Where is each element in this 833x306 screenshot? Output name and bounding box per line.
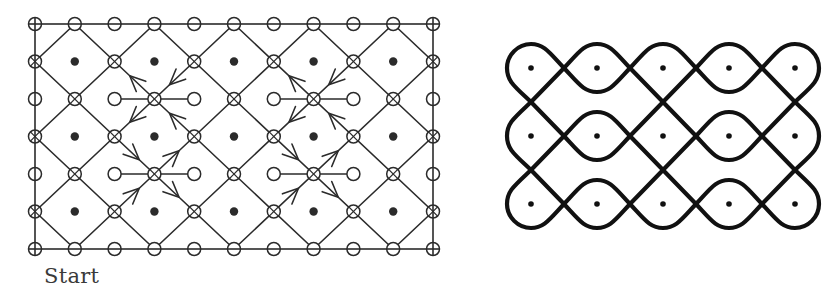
kolam-corner-loop (762, 44, 819, 102)
kolam-line (663, 102, 696, 136)
kolam-line (630, 170, 663, 204)
diagonal-line (234, 24, 433, 212)
diagram-canvas (0, 0, 833, 306)
kolam-dot (792, 133, 798, 139)
diagonal-line (35, 212, 75, 250)
open-circle-node (108, 168, 121, 181)
kolam-eye-bottom (696, 68, 762, 92)
kolam-eye-bottom (696, 136, 762, 160)
kolam-dot (660, 65, 666, 71)
kolam-line (663, 170, 696, 204)
kolam-dot (792, 201, 798, 207)
kolam-dot (726, 133, 732, 139)
kolam-bottom-arc (630, 204, 696, 228)
diagonal-line (35, 62, 234, 250)
kolam-line (630, 68, 663, 102)
filled-dot (230, 132, 238, 140)
open-circle-node (347, 168, 360, 181)
kolam-dot (726, 201, 732, 207)
filled-dot (71, 207, 79, 215)
kolam-dot (594, 133, 600, 139)
filled-dot (71, 132, 79, 140)
kolam-line (531, 68, 564, 102)
kolam-dots (528, 65, 798, 207)
kolam-line (762, 170, 795, 204)
kolam-eye-top (696, 44, 762, 68)
kolam-dot (594, 201, 600, 207)
kolam-pattern (507, 44, 819, 228)
kolam-line (630, 102, 663, 136)
kolam-dot (660, 133, 666, 139)
kolam-eye-top (564, 112, 630, 136)
kolam-line (663, 68, 696, 102)
kolam-dot (528, 65, 534, 71)
kolam-dot (726, 65, 732, 71)
kolam-eye-bottom (564, 68, 630, 92)
kolam-eye-top (696, 180, 762, 204)
kolam-eye-top (696, 112, 762, 136)
kolam-corner-loop (507, 44, 564, 102)
kolam-dot (528, 133, 534, 139)
kolam-line (531, 136, 564, 170)
kolam-line (663, 136, 696, 170)
diagonal-line (234, 62, 433, 250)
filled-dot (309, 132, 317, 140)
kolam-eye-top (564, 44, 630, 68)
filled-dot (150, 132, 158, 140)
kolam-right-arc (795, 102, 819, 170)
filled-dot (389, 207, 397, 215)
filled-dot (389, 57, 397, 65)
kolam-eye-top (564, 180, 630, 204)
kolam-corner-loop (762, 170, 819, 228)
kolam-dot (792, 65, 798, 71)
kolam-dot (528, 201, 534, 207)
open-circle-node (347, 93, 360, 106)
filled-dot (71, 57, 79, 65)
kolam-line (762, 68, 795, 102)
kolam-corner-loop (507, 170, 564, 228)
kolam-line (531, 102, 564, 136)
start-label: Start (44, 264, 99, 288)
kolam-dot (660, 201, 666, 207)
grid-nodes (29, 18, 440, 256)
filled-dot (230, 207, 238, 215)
filled-dot (389, 132, 397, 140)
filled-dot (309, 207, 317, 215)
filled-dot (309, 57, 317, 65)
kolam-line (762, 136, 795, 170)
diagonal-line (393, 24, 433, 62)
kolam-top-arc (630, 44, 696, 68)
open-circle-node (108, 93, 121, 106)
kolam-left-arc (507, 102, 531, 170)
kolam-eye-bottom (564, 136, 630, 160)
open-circle-node (267, 93, 280, 106)
kolam-eye-bottom (696, 204, 762, 228)
diagonal-line (393, 212, 433, 250)
open-circle-node (188, 168, 201, 181)
open-circle-node (188, 93, 201, 106)
kolam-line (531, 170, 564, 204)
kolam-dot (594, 65, 600, 71)
filled-dot (230, 57, 238, 65)
diagonal-line (35, 24, 234, 212)
diagonal-line (35, 24, 75, 62)
kolam-eye-bottom (564, 204, 630, 228)
filled-dot (150, 57, 158, 65)
open-circle-node (267, 168, 280, 181)
filled-dot (150, 207, 158, 215)
grid-diagram-with-arrows (29, 18, 440, 256)
kolam-line (630, 136, 663, 170)
kolam-line (762, 102, 795, 136)
